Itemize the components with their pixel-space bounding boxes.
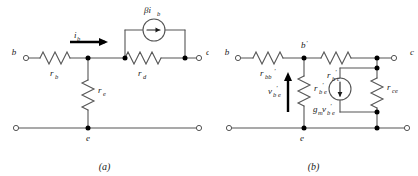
node-dot-source-left-a [123,56,128,61]
label-terminal-collector-b: c [410,47,414,57]
resistor-rbb-symbol [253,52,283,64]
label-beta-ib-main: βi [143,5,151,15]
label-rbe-sub2: e [324,88,327,95]
terminal-emitter-left-a[interactable] [13,125,18,130]
circuit-a-canvas: b c e r b r d r e i b [0,0,209,150]
terminal-emitter-right-a[interactable] [196,125,201,130]
label-terminal-emitter-b: e [300,133,304,143]
node-dot-base-junction-a [86,56,91,61]
terminal-collector-b[interactable] [391,55,396,60]
label-source-gmvbe: g m v b ′ e [313,102,335,116]
terminal-emitter-left-b[interactable] [226,125,231,130]
label-rbc-sub2: c [337,75,340,82]
node-dot-emitter-b [302,126,307,131]
label-terminal-base-a: b [12,47,17,57]
label-gm-sub3: e [332,109,335,116]
label-rbb-sub: bb [265,73,272,80]
label-voltage-vbe: v b ′ e [268,84,281,98]
label-vbe-sub2: e [278,91,281,98]
label-re-sub: e [103,90,106,97]
label-resistor-rd: r d [138,68,147,80]
resistor-rbc-symbol [321,52,351,64]
label-rd-main: r [138,68,142,78]
node-dot-emitter-a [86,126,91,131]
node-dot-emitter-right-b [375,126,380,131]
current-arrow-ib-head [99,38,108,46]
circuit-diagram-a: b c e r b r d r e i b [0,0,209,176]
voltage-arrow-vbe-head [284,72,292,81]
circuit-diagram-b: b c e b ′ r bb ′ r b ′ c r [209,0,418,176]
label-rb-main: r [50,68,54,78]
node-dot-collector-b [375,56,380,61]
label-gm-v: v [322,104,326,114]
label-rbc-main: r [327,70,331,80]
label-resistor-rb: r b [50,68,59,80]
figure-root: b c e r b r d r e i b [0,0,418,176]
label-terminal-base-b: b [225,47,230,57]
label-vbe-sub: b [273,91,277,98]
resistor-rb-symbol [40,52,70,64]
node-dot-source-right-a [183,56,188,61]
label-node-bprime: b ′ [301,39,308,50]
resistor-rce-symbol [371,78,383,108]
node-dot-source-top-b [375,66,380,71]
caption-a: (a) [0,161,209,172]
label-resistor-rbb: r bb ′ [260,67,276,80]
node-dot-bprime [302,56,307,61]
label-rbb-main: r [260,68,264,78]
label-bprime-prime: ′ [306,39,308,47]
label-rd-sub: d [143,73,147,80]
label-resistor-re: r e [98,85,106,97]
label-rbe-main: r [314,83,318,93]
label-rce-sub: ce [392,87,398,94]
label-resistor-rce: r ce [387,82,398,94]
label-beta-ib-sub: b [157,10,161,17]
terminal-base-a[interactable] [23,55,28,60]
resistor-re-symbol [82,80,94,110]
circuit-b-canvas: b c e b ′ r bb ′ r b ′ c r [209,0,418,150]
terminal-emitter-right-b[interactable] [404,125,409,130]
label-resistor-rbc: r b ′ c [327,68,340,82]
resistor-rd-symbol [125,52,161,64]
label-current-ib: i b [74,30,81,42]
label-rbe-sub: b [319,88,323,95]
label-vbe-main: v [268,86,272,96]
label-rbb-prime: ′ [274,67,276,75]
label-terminal-emitter-a: e [86,133,90,143]
resistor-rbe-symbol [298,76,310,106]
label-resistor-rbe: r b ′ e [314,81,327,95]
terminal-collector-a[interactable] [196,55,201,60]
terminal-base-b[interactable] [235,55,240,60]
label-rce-main: r [387,82,391,92]
caption-b: (b) [209,161,418,172]
label-gm-sub2: b [327,109,331,116]
label-re-main: r [98,85,102,95]
label-rb-sub: b [55,73,59,80]
node-dot-source-bottom-b [375,110,380,115]
voltage-arrow-vbe [284,72,292,112]
label-source-beta-ib: βi b [143,5,161,17]
